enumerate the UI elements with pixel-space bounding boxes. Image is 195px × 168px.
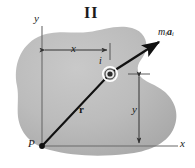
origin-point-label: P — [28, 138, 35, 149]
force-vector-label: miai — [158, 27, 174, 38]
force-vector-accel-subscript: i — [172, 30, 174, 37]
roman-numeral-label: II — [84, 5, 98, 21]
particle-core-dot — [107, 71, 112, 76]
position-vector-label: r — [79, 104, 84, 115]
particle-label: i — [99, 56, 102, 66]
origin-point-dot — [39, 143, 45, 149]
y-axis-label: y — [34, 13, 39, 24]
y-dimension-label: y — [132, 104, 137, 115]
x-axis-label: x — [180, 138, 185, 149]
x-dimension-label: x — [71, 43, 76, 54]
figure-root: II y x P i r x y miai — [0, 0, 195, 168]
